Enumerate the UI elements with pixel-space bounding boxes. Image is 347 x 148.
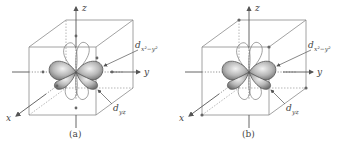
label-dx2-y2-sub: x²−y²	[141, 45, 158, 53]
ligand-dot	[200, 113, 203, 116]
caption-a: (a)	[69, 129, 81, 139]
y-axis-label: y	[316, 67, 323, 77]
label-dx2-y2: d x²−y²	[308, 40, 331, 53]
label-dyz-sub: yz	[291, 108, 299, 116]
z-axis-label: z	[254, 3, 260, 13]
x-axis-label: x	[179, 113, 184, 123]
ligand-dot	[42, 71, 45, 74]
ligand-dot	[267, 45, 270, 48]
panel-b: z y x d x²−y² d yz (b)	[179, 3, 331, 139]
figure-canvas: z y x d x²−y² d yz (a) z y x d x²−y² d	[0, 0, 347, 148]
y-axis-label: y	[143, 67, 150, 77]
label-dx2-y2-sub: x²−y²	[314, 45, 331, 53]
label-dx2-y2: d x²−y²	[135, 40, 158, 53]
ligand-dot	[304, 86, 307, 89]
ligand-dot	[75, 107, 78, 110]
label-dyz-sub: yz	[118, 108, 126, 116]
ligand-dot	[237, 18, 240, 21]
ligand-dot	[75, 35, 78, 38]
caption-b: (b)	[242, 129, 255, 139]
ligand-dot	[111, 71, 114, 74]
label-dyz: d yz	[286, 103, 299, 116]
ligand-dot	[96, 57, 99, 60]
x-axis-label: x	[6, 113, 11, 123]
panel-a: z y x d x²−y² d yz (a)	[6, 3, 158, 139]
ligand-dot	[56, 85, 59, 88]
label-dyz: d yz	[113, 103, 126, 116]
z-axis-label: z	[81, 3, 87, 13]
